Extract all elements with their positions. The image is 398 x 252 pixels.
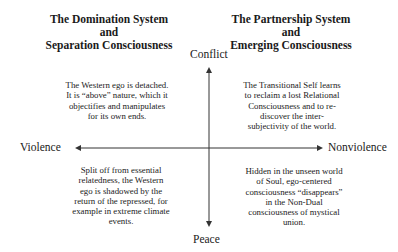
quadrant-top-right-text: The Transitional Self learns to reclaim … [242,80,342,131]
axis-label-conflict: Conflict [190,48,228,61]
axis-label-peace: Peace [193,233,220,246]
quadrant-top-left-text: The Western ego is detached. It is “abov… [64,80,170,121]
axis-label-nonviolence: Nonviolence [328,141,387,154]
axis-label-violence: Violence [20,141,61,154]
quadrant-bottom-right-text: Hidden in the unseen world of Soul, ego-… [243,166,345,228]
quadrant-bottom-left-text: Split off from essential relatedness, th… [72,165,170,227]
